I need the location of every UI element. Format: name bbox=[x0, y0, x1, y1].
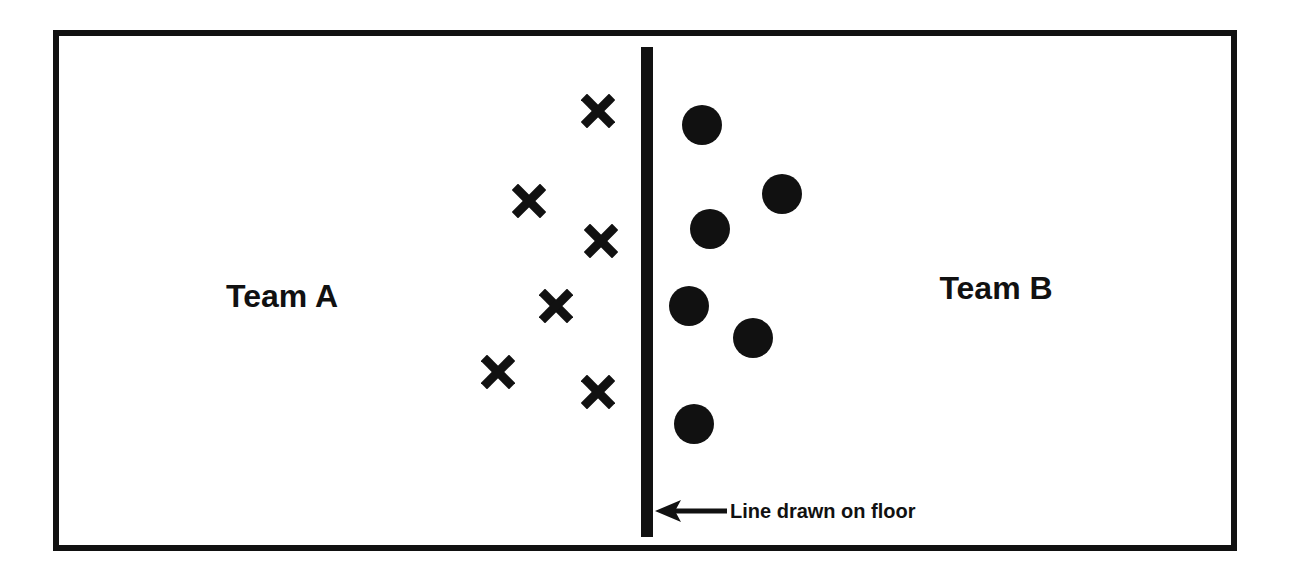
team-a-label: Team A bbox=[226, 278, 338, 315]
circle-icon bbox=[733, 318, 773, 358]
x-icon bbox=[512, 184, 546, 218]
annotation-label: Line drawn on floor bbox=[730, 500, 916, 523]
left-arrow-icon bbox=[655, 497, 727, 525]
x-icon bbox=[581, 94, 615, 128]
floor-line bbox=[641, 47, 653, 537]
x-icon bbox=[584, 224, 618, 258]
x-icon bbox=[539, 289, 573, 323]
circle-icon bbox=[674, 404, 714, 444]
circle-icon bbox=[762, 174, 802, 214]
circle-icon bbox=[669, 286, 709, 326]
team-b-label: Team B bbox=[939, 270, 1052, 307]
x-icon bbox=[581, 375, 615, 409]
floor-line-annotation: Line drawn on floor bbox=[655, 497, 916, 525]
x-icon bbox=[481, 355, 515, 389]
circle-icon bbox=[682, 105, 722, 145]
circle-icon bbox=[690, 209, 730, 249]
